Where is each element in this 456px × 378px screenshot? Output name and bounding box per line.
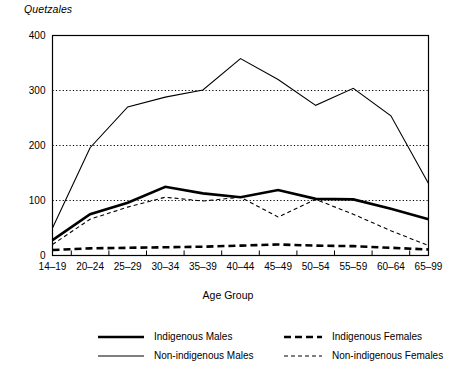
line-chart-svg: 010020030040014–1920–2425–2930–3435–3940…	[0, 0, 456, 378]
y-tick-label-0: 0	[40, 250, 46, 261]
x-tick-label-1: 20–24	[76, 261, 104, 272]
y-tick-label-100: 100	[29, 195, 46, 206]
x-tick-label-9: 60–64	[377, 261, 405, 272]
chart-container: Quetzales 010020030040014–1920–2425–2930…	[0, 0, 456, 378]
y-tick-label-400: 400	[29, 30, 46, 41]
x-tick-label-4: 35–39	[189, 261, 217, 272]
y-tick-label-300: 300	[29, 85, 46, 96]
x-tick-label-8: 55–59	[339, 261, 367, 272]
x-tick-label-6: 45–49	[264, 261, 292, 272]
x-axis-title: Age Group	[0, 289, 456, 301]
y-tick-label-200: 200	[29, 140, 46, 151]
x-tick-label-0: 14–19	[39, 261, 67, 272]
x-tick-label-5: 40–44	[227, 261, 255, 272]
x-tick-label-2: 25–29	[114, 261, 142, 272]
x-tick-label-7: 50–54	[302, 261, 330, 272]
x-tick-label-3: 30–34	[151, 261, 179, 272]
legend-label-indigenous-males: Indigenous Males	[154, 331, 232, 342]
legend-label-non-indigenous-females: Non-indigenous Females	[332, 350, 443, 361]
legend-label-non-indigenous-males: Non-indigenous Males	[154, 350, 254, 361]
legend-label-indigenous-females: Indigenous Females	[332, 331, 422, 342]
x-tick-label-10: 65–99	[415, 261, 443, 272]
